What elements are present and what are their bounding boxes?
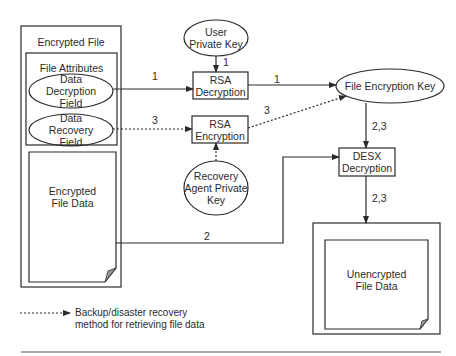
page-fold-icon (420, 319, 428, 329)
ddf-line-2: Decryption (29, 85, 113, 97)
upk-line-2: Private Key (184, 38, 248, 50)
user-private-key-label: User Private Key (184, 26, 248, 50)
arrow-rsa-encryption-to-fek (248, 96, 346, 128)
unencrypted-file-data-label: Unencrypted File Data (325, 268, 428, 292)
ddf-line-3: Field (29, 97, 113, 109)
edge-label-data-desx: 2 (204, 230, 210, 242)
rsa-encryption-label: RSA Encryption (192, 118, 248, 142)
legend-line-2: method for retrieving file data (75, 319, 205, 331)
rapk-line-1: Recovery (184, 170, 248, 182)
desx-decryption-label: DESX Decryption (339, 150, 395, 174)
encrypted-file-data-label: Encrypted File Data (29, 185, 116, 209)
edge-label-rsa-enc-fek: 3 (264, 104, 270, 116)
encrypted-file-data-page (29, 152, 116, 282)
ufd-line-1: Unencrypted (325, 268, 428, 280)
legend-line-1: Backup/disaster recovery (75, 307, 205, 319)
edge-label-fek-desx: 2,3 (372, 120, 387, 132)
data-recovery-field-label: Data Recovery Field (29, 112, 113, 148)
edge-label-drf: 3 (152, 114, 158, 126)
data-decryption-field-label: Data Decryption Field (29, 73, 113, 109)
ddf-line-1: Data (29, 73, 113, 85)
drf-line-2: Recovery (29, 124, 113, 136)
desx-line-2: Decryption (339, 162, 395, 174)
recovery-agent-private-key-label: Recovery Agent Private Key (184, 170, 248, 206)
edge-label-ddf: 1 (152, 70, 158, 82)
edge-label-rsa-dec-fek: 1 (274, 73, 280, 85)
efd-line-1: Encrypted (29, 185, 116, 197)
rsa-dec-line-2: Decryption (193, 86, 248, 98)
encrypted-file-title: Encrypted File (21, 36, 121, 48)
page-fold-icon (105, 268, 116, 282)
drf-line-3: Field (29, 136, 113, 148)
ufd-line-2: File Data (325, 280, 428, 292)
file-encryption-key-label: File Encryption Key (336, 80, 444, 92)
upk-line-1: User (184, 26, 248, 38)
rapk-line-3: Key (184, 194, 248, 206)
rsa-decryption-label: RSA Decryption (193, 74, 248, 98)
desx-line-1: DESX (339, 150, 395, 162)
legend-text: Backup/disaster recovery method for retr… (75, 307, 205, 331)
rsa-enc-line-1: RSA (192, 118, 248, 130)
drf-line-1: Data (29, 112, 113, 124)
edge-label-upk: 1 (223, 56, 229, 68)
efd-line-2: File Data (29, 197, 116, 209)
edge-label-desx-output: 2,3 (372, 192, 387, 204)
rapk-line-2: Agent Private (184, 182, 248, 194)
rsa-enc-line-2: Encryption (192, 130, 248, 142)
rsa-dec-line-1: RSA (193, 74, 248, 86)
